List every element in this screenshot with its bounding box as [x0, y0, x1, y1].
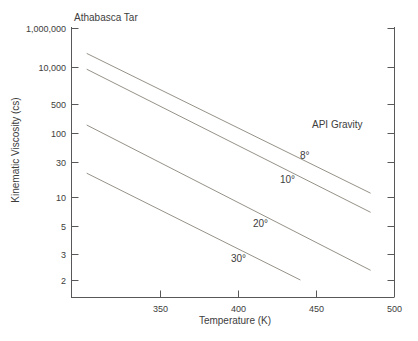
- y-tick-label: 10: [56, 193, 66, 203]
- legend-title: API Gravity: [312, 119, 363, 131]
- chart-title: Athabasca Tar: [74, 12, 138, 24]
- series-label-api-30: 30°: [231, 253, 246, 265]
- series-label-api-8: 8°: [300, 150, 310, 162]
- series-label-api-20: 20°: [253, 218, 268, 230]
- y-tick-label: 3: [61, 250, 66, 260]
- viscosity-temperature-plot: 1,000,00010,0005001003010532350400450500: [0, 0, 418, 341]
- series-line-api-gravity-10: [87, 69, 371, 212]
- x-tick-label: 500: [387, 304, 402, 314]
- chart-figure: 1,000,00010,0005001003010532350400450500…: [0, 0, 418, 341]
- y-axis-label: Kinematic Viscosity (cs): [10, 97, 22, 202]
- y-tick-label: 5: [61, 222, 66, 232]
- x-axis-label: Temperature (K): [168, 315, 302, 327]
- y-tick-label: 100: [51, 129, 66, 139]
- series-line-api-gravity-30: [87, 173, 301, 280]
- y-tick-label: 2: [61, 276, 66, 286]
- series-line-api-gravity-20: [87, 125, 371, 270]
- x-tick-label: 350: [153, 304, 168, 314]
- y-tick-label: 30: [56, 158, 66, 168]
- y-tick-label: 1,000,000: [26, 24, 66, 34]
- x-tick-label: 450: [309, 304, 324, 314]
- y-tick-label: 500: [51, 100, 66, 110]
- y-tick-label: 10,000: [38, 63, 66, 73]
- series-label-api-10: 10°: [280, 174, 295, 186]
- x-tick-label: 400: [231, 304, 246, 314]
